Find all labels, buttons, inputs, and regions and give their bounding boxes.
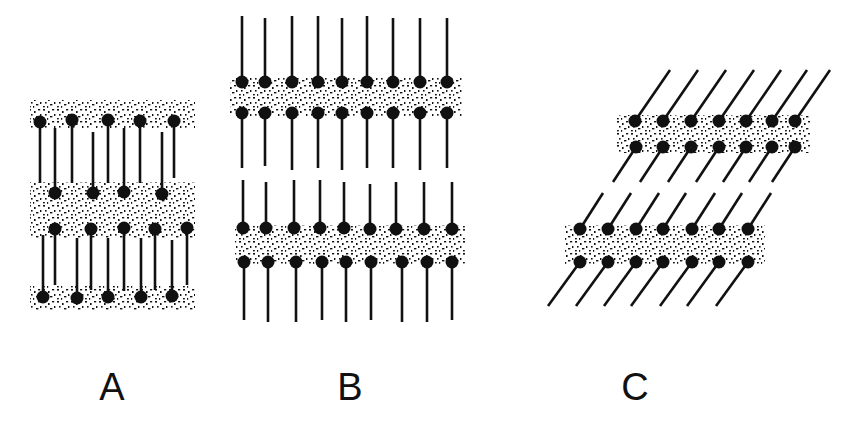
panel-a-interdigitated [30, 100, 195, 310]
lipid-head [34, 116, 47, 129]
lipid-head [237, 222, 250, 235]
lipid-head [390, 223, 403, 236]
lipid-head [629, 115, 642, 128]
lipid-head [441, 107, 454, 120]
lipid-head [766, 141, 779, 154]
lipid-head [387, 76, 400, 89]
lipid-head [713, 141, 726, 154]
lipid-head [602, 223, 615, 236]
lipid-head [361, 76, 374, 89]
lipid-head [713, 223, 726, 236]
lipid-head [102, 114, 115, 127]
lipid-head [286, 107, 299, 120]
lipid-head [630, 256, 643, 269]
lipid-head [713, 115, 726, 128]
lipid-head [336, 76, 349, 89]
lipid-head [602, 256, 615, 269]
lipid-head [742, 256, 755, 269]
lipid-head [630, 223, 643, 236]
lipid-head [686, 256, 699, 269]
lipid-head [686, 223, 699, 236]
lipid-head [156, 188, 169, 201]
lipid-head [314, 222, 327, 235]
lipid-head [740, 141, 753, 154]
lipid-head [236, 76, 249, 89]
lipid-head [85, 223, 98, 236]
lipid-head [446, 256, 459, 269]
lipid-head [71, 292, 84, 305]
lipid-head [135, 291, 148, 304]
lipid-head [288, 222, 301, 235]
lipid-head [789, 141, 802, 154]
lipid-tail [576, 262, 608, 306]
lipid-head [657, 256, 670, 269]
lipid-head [236, 107, 249, 120]
lipid-head [713, 256, 726, 269]
lipid-head [766, 115, 779, 128]
lipid-head [340, 256, 353, 269]
lipid-head [262, 256, 275, 269]
lipid-head [387, 107, 400, 120]
lipid-head [290, 256, 303, 269]
panel-label-c: C [621, 368, 648, 406]
lipid-tail [663, 70, 698, 121]
lipid-head [312, 107, 325, 120]
lipid-tail [719, 70, 754, 121]
lipid-tail [660, 262, 692, 306]
lipid-head [49, 223, 62, 236]
lipid-head [312, 76, 325, 89]
lipid-head [740, 115, 753, 128]
lipid-tail [687, 262, 719, 306]
lipid-head [118, 186, 131, 199]
lipid-tail [691, 70, 726, 121]
lipid-tail [631, 262, 663, 306]
lipid-head [365, 256, 378, 269]
lipid-head [286, 76, 299, 89]
lipid-tail [548, 262, 580, 306]
lipid-head [49, 187, 62, 200]
lipid-head [238, 256, 251, 269]
lipid-head [630, 141, 643, 154]
lipid-head [181, 222, 194, 235]
lipid-tail [604, 262, 636, 306]
lipid-head [168, 115, 181, 128]
lipid-head [414, 76, 427, 89]
lipid-head [574, 256, 587, 269]
lipid-head [657, 223, 670, 236]
lipid-head [421, 256, 434, 269]
lipid-head [396, 256, 409, 269]
lipid-head [66, 114, 79, 127]
lipid-tail [635, 70, 670, 121]
lipid-head [446, 223, 459, 236]
lipid-head [37, 291, 50, 304]
lipid-head [361, 107, 374, 120]
lipid-head [685, 141, 698, 154]
lipid-head [338, 222, 351, 235]
lipid-head [149, 223, 162, 236]
lipid-head [418, 223, 431, 236]
panel-label-a: A [99, 368, 124, 406]
lipid-head [657, 115, 670, 128]
lipid-head [364, 223, 377, 236]
panel-label-b: B [337, 368, 362, 406]
lipid-head [166, 290, 179, 303]
panel-b-bilayer [230, 16, 465, 322]
panel-c-tilted-bilayer [548, 70, 830, 306]
lipid-head [260, 222, 273, 235]
lipid-head [574, 223, 587, 236]
lipid-head [259, 76, 272, 89]
lipid-head [414, 107, 427, 120]
lipid-phase-diagram [0, 0, 862, 424]
lipid-head [316, 256, 329, 269]
lipid-head [742, 223, 755, 236]
lipid-head [259, 107, 272, 120]
lipid-head [685, 115, 698, 128]
lipid-head [102, 291, 115, 304]
lipid-head [789, 115, 802, 128]
lipid-tail [716, 262, 748, 306]
lipid-head [336, 107, 349, 120]
lipid-head [134, 115, 147, 128]
lipid-head [441, 76, 454, 89]
lipid-head [657, 141, 670, 154]
lipid-head [87, 187, 100, 200]
